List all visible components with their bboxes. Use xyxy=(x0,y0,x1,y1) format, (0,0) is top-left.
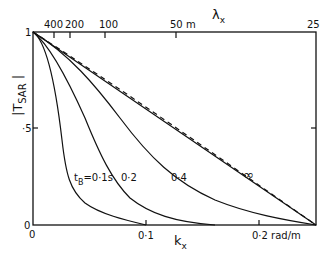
y-label-0-5: ·5 xyxy=(22,123,32,134)
top-axis-title: λx xyxy=(212,7,226,25)
x-label-0-1: 0·1 xyxy=(138,230,154,241)
top-label-200: 200 xyxy=(65,19,84,30)
label-0-2: 0·2 xyxy=(121,172,137,183)
x-axis-title: kx xyxy=(174,233,188,251)
top-label-25: 25 xyxy=(307,19,320,30)
top-label-100: 100 xyxy=(99,19,118,30)
y-label-1: 1 xyxy=(25,27,31,38)
top-label-50: 50 m xyxy=(170,19,196,30)
label-tb: tB=0·1s xyxy=(74,172,113,187)
y-label-0: 0 xyxy=(24,220,30,231)
y-axis-title: |TSAR | xyxy=(10,75,28,116)
label-0-4: 0·4 xyxy=(171,172,187,183)
chart: tB=0·1s 0·2 0·4 ∞ 0 0·1 0·2 rad/m kx 0 ·… xyxy=(0,0,325,255)
label-infinity: ∞ xyxy=(243,167,254,182)
top-label-400: 400 xyxy=(44,19,63,30)
x-label-0-2: 0·2 rad/m xyxy=(252,230,301,241)
